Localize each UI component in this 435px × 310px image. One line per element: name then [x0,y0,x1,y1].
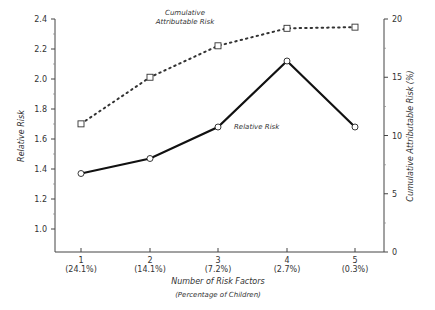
car-square-marker [215,43,221,49]
left-tick-label: 2.2 [34,45,47,54]
rr-circle-marker [284,58,290,64]
x-tick-label: 5 [352,256,357,265]
car-square-marker [147,74,153,80]
annotation-car-line2: Attributable Risk [155,18,215,26]
x-tick-label: 3 [215,256,220,265]
left-axis-ticks: 1.01.21.41.61.82.02.22.4 [34,15,55,234]
left-tick-label: 1.0 [34,225,47,234]
series-cumulative-attributable-risk [78,24,358,127]
right-tick-label: 0 [392,248,397,257]
x-tick-label: 2 [147,256,152,265]
right-tick-label: 15 [392,73,402,82]
left-axis-title: Relative Risk [17,110,26,162]
annotation-car-line1: Cumulative [165,9,205,17]
left-tick-label: 1.2 [34,195,47,204]
left-tick-label: 1.8 [34,105,47,114]
annotation-relative-risk: Relative Risk [234,123,280,131]
right-axis-title: Cumulative Attributable Risk (%) [406,70,415,201]
left-tick-label: 2.4 [34,15,47,24]
rr-circle-marker [352,124,358,130]
x-tick-label: 4 [284,256,289,265]
left-tick-label: 2.0 [34,75,47,84]
dual-axis-line-chart: 1.01.21.41.61.82.02.22.4 05101520 1(24.1… [0,0,435,310]
right-tick-label: 10 [392,132,402,141]
right-tick-label: 20 [392,15,402,24]
x-tick-label: 1 [78,256,83,265]
x-tick-sublabel: (24.1%) [65,265,97,274]
x-tick-sublabel: (7.2%) [205,265,232,274]
left-tick-label: 1.4 [34,165,47,174]
x-axis-title: Number of Risk Factors [171,277,264,286]
car-line [81,27,355,124]
car-square-marker [352,24,358,30]
rr-line [81,61,355,174]
chart-container: 1.01.21.41.61.82.02.22.4 05101520 1(24.1… [0,0,435,310]
right-axis-ticks: 05101520 [384,15,402,257]
rr-circle-marker [78,171,84,177]
axes [55,19,384,252]
rr-circle-marker [147,156,153,162]
series-relative-risk [78,58,358,177]
left-tick-label: 1.6 [34,135,47,144]
car-square-marker [284,25,290,31]
right-tick-label: 5 [392,190,397,199]
x-axis-subtitle: (Percentage of Children) [175,291,261,299]
x-tick-sublabel: (14.1%) [134,265,166,274]
x-tick-sublabel: (0.3%) [342,265,369,274]
x-tick-sublabel: (2.7%) [274,265,301,274]
rr-circle-marker [215,124,221,130]
car-square-marker [78,121,84,127]
